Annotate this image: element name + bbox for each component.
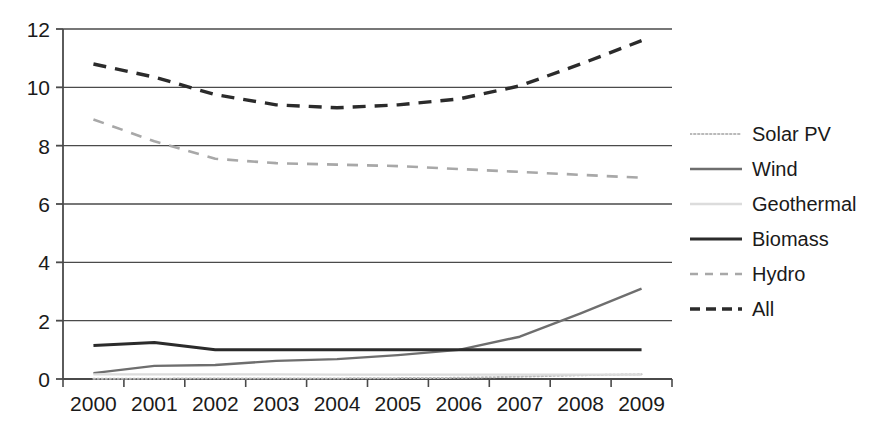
series-line-wind [93,289,641,374]
plot-svg: 024681012 200020012002200320042005200620… [0,0,690,432]
legend-item-geothermal[interactable]: Geothermal [690,186,883,221]
legend-label: Biomass [752,229,829,249]
series-line-all [93,41,641,108]
x-tick-label: 2002 [192,392,239,415]
x-tick-label: 2004 [314,392,361,415]
series-line-hydro [93,119,641,177]
legend-label: All [752,299,774,319]
legend-swatch-icon [690,197,742,211]
line-chart: 024681012 200020012002200320042005200620… [0,0,883,432]
x-tick-marks [63,379,672,387]
legend-swatch-icon [690,162,742,176]
y-tick-label: 2 [38,310,50,333]
series-lines [93,41,641,379]
y-tick-label: 12 [27,18,50,41]
y-tick-label: 4 [38,251,50,274]
plot-area: 024681012 200020012002200320042005200620… [0,0,690,432]
legend-item-hydro[interactable]: Hydro [690,256,883,291]
x-tick-label: 2005 [375,392,422,415]
legend-swatch-icon [690,302,742,316]
x-tick-labels: 2000200120022003200420052006200720082009 [70,392,665,415]
x-tick-label: 2001 [131,392,178,415]
y-tick-labels: 024681012 [27,18,51,391]
gridlines [63,29,672,379]
x-tick-label: 2009 [618,392,665,415]
x-tick-label: 2007 [496,392,543,415]
legend-label: Hydro [752,264,805,284]
series-line-biomass [93,343,641,350]
legend-swatch-icon [690,127,742,141]
y-tick-label: 0 [38,368,50,391]
y-tick-label: 10 [27,76,50,99]
legend-label: Solar PV [752,124,831,144]
x-tick-label: 2008 [557,392,604,415]
y-tick-label: 8 [38,135,50,158]
chart-legend: Solar PVWindGeothermalBiomassHydroAll [690,116,883,326]
legend-item-all[interactable]: All [690,291,883,326]
legend-item-biomass[interactable]: Biomass [690,221,883,256]
legend-label: Geothermal [752,194,857,214]
x-tick-label: 2006 [435,392,482,415]
legend-swatch-icon [690,232,742,246]
legend-item-solar-pv[interactable]: Solar PV [690,116,883,151]
x-tick-label: 2003 [253,392,300,415]
legend-label: Wind [752,159,798,179]
y-tick-marks [56,29,63,379]
x-tick-label: 2000 [70,392,117,415]
legend-swatch-icon [690,267,742,281]
y-tick-label: 6 [38,193,50,216]
legend-item-wind[interactable]: Wind [690,151,883,186]
